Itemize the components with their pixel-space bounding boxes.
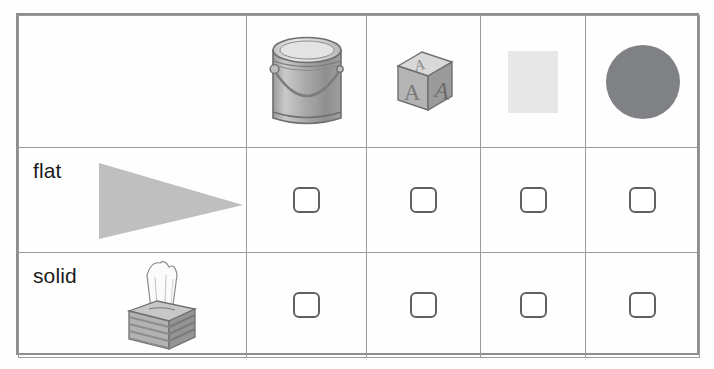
checkbox-flat-block[interactable] [410, 187, 437, 213]
header-cell-empty [19, 16, 247, 148]
worksheet-table: A A A [16, 13, 699, 355]
checkbox-solid-block[interactable] [410, 292, 437, 318]
checkbox-solid-circle[interactable] [629, 292, 656, 318]
row-flat: flat [19, 148, 700, 253]
tissue-box-icon [111, 257, 211, 355]
checkbox-flat-paint-can[interactable] [293, 187, 320, 213]
header-cell-square [481, 16, 586, 148]
checkbox-cell-solid-circle[interactable] [586, 253, 700, 358]
svg-text:A: A [403, 80, 420, 105]
header-cell-alphabet-block: A A A [367, 16, 481, 148]
checkbox-cell-solid-block[interactable] [367, 253, 481, 358]
svg-text:A: A [413, 55, 425, 74]
header-cell-circle [586, 16, 700, 148]
alphabet-block-icon: A A A [384, 42, 464, 122]
checkbox-solid-square[interactable] [520, 292, 547, 318]
checkbox-flat-circle[interactable] [629, 187, 656, 213]
checkbox-cell-solid-paint-can[interactable] [247, 253, 367, 358]
checkbox-solid-paint-can[interactable] [293, 292, 320, 318]
circle-shape-icon [606, 45, 680, 119]
row-label-solid: solid [33, 265, 77, 286]
checkbox-cell-flat-square[interactable] [481, 148, 586, 253]
header-cell-paint-can [247, 16, 367, 148]
square-shape-icon [508, 51, 558, 113]
checkbox-cell-flat-block[interactable] [367, 148, 481, 253]
sorting-grid: A A A [18, 15, 700, 358]
row-label-cell-solid: solid [19, 253, 247, 358]
triangle-shape-icon [97, 161, 245, 241]
checkbox-cell-flat-circle[interactable] [586, 148, 700, 253]
row-label-flat: flat [33, 160, 61, 181]
checkbox-cell-solid-square[interactable] [481, 253, 586, 358]
row-label-cell-flat: flat [19, 148, 247, 253]
paint-can-icon [259, 26, 355, 138]
header-row: A A A [19, 16, 700, 148]
checkbox-flat-square[interactable] [520, 187, 547, 213]
checkbox-cell-flat-paint-can[interactable] [247, 148, 367, 253]
row-solid: solid [19, 253, 700, 358]
